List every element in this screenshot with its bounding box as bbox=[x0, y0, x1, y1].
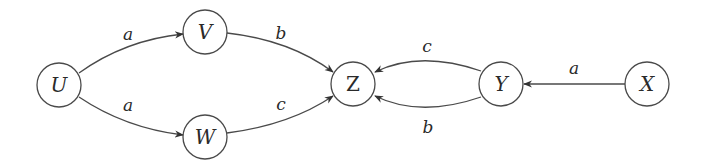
graph-diagram: a a b c c b a U V W Z Y X bbox=[0, 0, 702, 167]
edge-label-x-y: a bbox=[569, 58, 579, 78]
edge-label-w-z: c bbox=[276, 94, 286, 114]
edge-label-u-v: a bbox=[123, 24, 133, 44]
node-label-u: U bbox=[51, 73, 69, 97]
node-w: W bbox=[183, 115, 227, 159]
node-x: X bbox=[625, 62, 669, 106]
edge-label-v-z: b bbox=[276, 23, 287, 43]
edge-y-z-upper bbox=[375, 61, 481, 72]
node-y: Y bbox=[479, 62, 523, 106]
node-z: Z bbox=[331, 62, 375, 106]
node-label-v: V bbox=[198, 20, 215, 44]
node-u: U bbox=[37, 63, 81, 107]
edge-label-y-z-upper: c bbox=[422, 36, 432, 56]
node-label-x: X bbox=[638, 72, 655, 96]
edge-y-z-lower bbox=[375, 96, 481, 107]
node-v: V bbox=[183, 10, 227, 54]
node-label-w: W bbox=[195, 125, 217, 149]
node-label-z: Z bbox=[346, 72, 360, 96]
node-label-y: Y bbox=[494, 72, 509, 96]
edge-label-u-w: a bbox=[123, 95, 133, 115]
edge-label-y-z-lower: b bbox=[423, 117, 434, 137]
